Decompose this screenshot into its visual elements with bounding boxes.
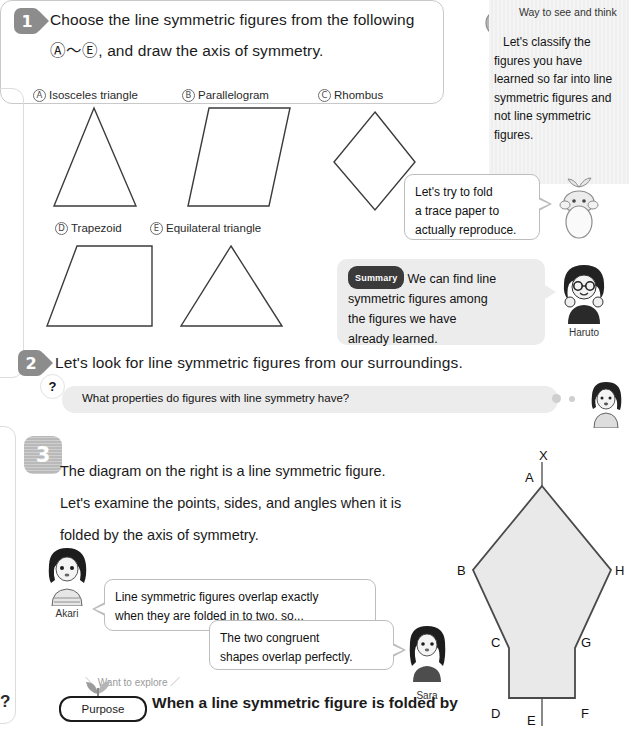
decor-frame-upper	[0, 88, 24, 378]
purpose-badge: Purpose	[59, 696, 147, 722]
range-to: Ⓔ	[82, 42, 98, 59]
student-avatar-question	[586, 380, 626, 428]
sara-line-1: The two congruent	[220, 629, 383, 648]
akari-avatar	[42, 546, 92, 606]
figure-letter-e: E	[150, 222, 163, 235]
purpose-statement: When a line symmetric figure is folded b…	[152, 694, 458, 712]
section-2-number: 2	[25, 354, 36, 373]
sprout-mascot-icon	[556, 176, 602, 242]
line-symmetric-figure-diagram: X A B C D E F G H	[455, 450, 629, 736]
diagram-label-D: D	[491, 706, 500, 721]
diagram-label-C: C	[491, 635, 500, 650]
section-1-heading-line1: Choose the line symmetric figures from t…	[50, 5, 414, 35]
figure-label-c: Rhombus	[334, 89, 383, 101]
figure-letter-b: B	[182, 89, 195, 102]
diagram-label-H: H	[615, 563, 624, 578]
summary-badge: Summary	[348, 266, 404, 289]
section-1-heading-line2: Ⓐ〜Ⓔ, and draw the axis of symmetry.	[50, 36, 324, 66]
figure-caption-a: AIsosceles triangle	[33, 89, 138, 102]
akari-line-1: Line symmetric figures overlap exactly	[115, 588, 365, 607]
section-3-line-1: The diagram on the right is a line symme…	[60, 455, 480, 487]
section-1-heading-tail: , and draw the axis of symmetry.	[98, 42, 323, 59]
figure-label-b: Parallelogram	[198, 89, 269, 101]
fold-speech-bubble: Let's try to fold a trace paper to actua…	[404, 174, 540, 240]
section-3-number: 3	[36, 443, 51, 467]
trapezoid-shape	[40, 240, 170, 335]
fold-line-2: a trace paper to	[415, 202, 529, 221]
figure-letter-a: A	[33, 89, 46, 102]
haruto-avatar	[554, 262, 614, 324]
haruto-name: Haruto	[554, 327, 614, 338]
figure-caption-c: CRhombus	[318, 89, 383, 102]
range-from: Ⓐ	[50, 42, 66, 59]
figure-caption-e: EEquilateral triangle	[150, 222, 261, 235]
summary-gray-bubble: SummaryWe can find line symmetric figure…	[337, 259, 545, 345]
figure-label-d: Trapezoid	[71, 222, 122, 234]
figure-label-e: Equilateral triangle	[166, 222, 261, 234]
diagram-label-A: A	[525, 470, 534, 485]
section-1-badge: 1	[14, 8, 40, 34]
section-3-badge: 3	[24, 436, 62, 474]
akari-name: Akari	[42, 608, 92, 619]
isosceles-triangle-shape	[40, 104, 160, 214]
section-3-text: The diagram on the right is a line symme…	[60, 455, 480, 551]
range-tilde: 〜	[66, 42, 82, 59]
section-1-number: 1	[21, 12, 32, 31]
summary-line-3: the figures we have	[348, 309, 534, 329]
question-mark-text: ?	[49, 379, 57, 394]
sara-avatar	[404, 624, 450, 682]
figure-letter-c: C	[318, 89, 331, 102]
section-3-line-3: folded by the axis of symmetry.	[60, 519, 480, 551]
progress-dot-1	[552, 394, 561, 403]
purpose-badge-label: Purpose	[82, 703, 125, 715]
diagram-label-F: F	[581, 706, 589, 721]
fold-line-1: Let's try to fold	[415, 183, 529, 202]
diagram-label-B: B	[457, 563, 466, 578]
parallelogram-shape	[185, 104, 305, 214]
decor-frame-lower	[0, 426, 16, 724]
figure-label-a: Isosceles triangle	[49, 89, 138, 101]
diagram-label-E: E	[527, 713, 536, 728]
figure-caption-d: DTrapezoid	[55, 222, 122, 235]
sara-line-2: shapes overlap perfectly.	[220, 648, 383, 667]
section-1-heading-text: Choose the line symmetric figures from t…	[50, 11, 414, 28]
diagram-label-G: G	[581, 635, 591, 650]
section-2-heading: Let's look for line symmetric figures fr…	[55, 348, 463, 378]
diagram-label-X: X	[539, 450, 548, 463]
figure-letter-d: D	[55, 222, 68, 235]
sprout-icon	[83, 676, 113, 696]
summary-line-2: symmetric figures among	[348, 289, 534, 309]
summary-line-4: already learned.	[348, 329, 534, 349]
think-panel-body: Let's classify the figures you have lear…	[494, 33, 622, 144]
fold-line-3: actually reproduce.	[415, 221, 529, 240]
purpose-question-mark: ?	[0, 692, 10, 712]
section-3-line-2: Let's examine the points, sides, and ang…	[60, 487, 480, 519]
equilateral-triangle-shape	[170, 240, 300, 335]
progress-dot-2	[569, 396, 575, 402]
question-text: What properties do figures with line sym…	[82, 392, 349, 404]
sara-speech-bubble: The two congruent shapes overlap perfect…	[209, 620, 394, 670]
figure-caption-b: BParallelogram	[182, 89, 269, 102]
section-2-badge: 2	[18, 350, 44, 376]
summary-line-1: We can find line	[407, 272, 496, 286]
think-panel-title: Way to see and think	[519, 6, 627, 18]
question-mark-badge: ?	[40, 374, 65, 399]
